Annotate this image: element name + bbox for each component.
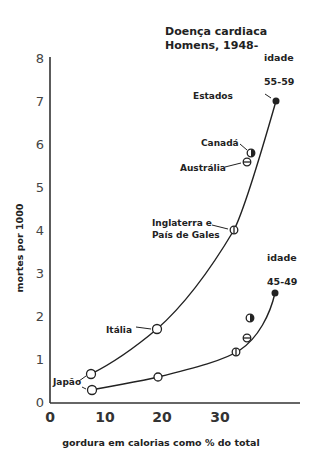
age-label-upper-word: idade [264,52,294,63]
marker-australia-45-49 [243,334,251,342]
annotation-japao: Japão [52,377,81,387]
annotation-inglaterra-line2: País de Gales [152,230,220,240]
x-axis-label: gordura em calorias como % do total [62,437,259,448]
chart-title: Doença cardiaca [165,25,267,38]
marker-italia-55-59 [153,325,162,334]
arrow-italia [136,327,151,329]
y-tick-4: 4 [36,223,44,238]
y-tick-2: 2 [36,309,44,324]
marker-japao-55-59 [87,370,96,379]
age-label-upper-range: 55-59 [264,76,294,87]
marker-italia-45-49 [154,373,162,381]
marker-inglaterra-45-49 [232,348,240,356]
annotation-italia: Itália [106,325,132,335]
x-tick-labels: 0 10 20 30 [45,409,230,425]
annotation-australia: Austrália [180,163,226,173]
marker-japao-45-49 [88,386,97,395]
y-tick-6: 6 [36,137,44,152]
chart-canvas: Doença cardiaca Homens, 1948- 0 1 2 3 4 … [0,0,319,463]
y-tick-5: 5 [36,180,44,195]
arrow-estados [265,94,271,98]
annotation-canada: Canadá [201,138,239,148]
annotation-inglaterra-line1: Inglaterra e [152,218,212,228]
marker-canada-45-49 [246,314,254,322]
y-axis-label: mortes por 1000 [14,203,25,292]
marker-estados-45-49 [272,290,279,297]
arrow-japao-lower [82,387,86,389]
y-tick-1: 1 [36,352,44,367]
arrow-inglaterra [212,225,228,229]
y-tick-0: 0 [36,395,44,410]
x-tick-20: 20 [152,409,172,425]
y-tick-7: 7 [36,94,44,109]
age-label-lower-word: idade [267,252,297,263]
x-tick-10: 10 [95,409,115,425]
y-tick-labels: 0 1 2 3 4 5 6 7 8 [36,51,44,410]
y-tick-3: 3 [36,266,44,281]
marker-canada-55-59 [247,149,255,157]
y-tick-8: 8 [36,51,44,66]
annotation-estados: Estados [193,91,233,101]
chart-subtitle: Homens, 1948- [165,39,258,52]
marker-australia-55-59 [243,158,251,166]
x-tick-0: 0 [45,409,55,425]
age-label-lower-range: 45-49 [267,276,297,287]
arrow-australia [225,163,241,167]
x-tick-30: 30 [210,409,230,425]
arrow-canada [240,144,247,150]
marker-estados-55-59 [273,98,280,105]
marker-inglaterra-55-59 [230,226,238,234]
